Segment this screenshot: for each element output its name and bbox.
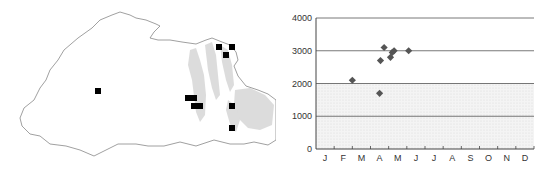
data-point-diamond bbox=[349, 77, 356, 84]
locality-marker bbox=[216, 44, 222, 50]
y-tick-label: 1000 bbox=[292, 111, 312, 121]
y-tick-label: 0 bbox=[307, 144, 312, 154]
x-tick-label: S bbox=[467, 153, 473, 163]
locality-marker bbox=[197, 103, 203, 109]
relief-shading bbox=[188, 42, 274, 132]
y-tick-label: 3000 bbox=[292, 46, 312, 56]
x-tick-label: J bbox=[414, 153, 419, 163]
locality-marker bbox=[229, 103, 235, 109]
x-tick-label: M bbox=[358, 153, 366, 163]
locality-marker bbox=[223, 52, 229, 58]
y-tick-label: 4000 bbox=[292, 13, 312, 23]
locality-marker bbox=[95, 88, 101, 94]
data-point-diamond bbox=[381, 44, 388, 51]
x-tick-labels: JFMAMJJASOND bbox=[323, 153, 529, 163]
data-point-diamond bbox=[405, 47, 412, 54]
locality-marker bbox=[229, 125, 235, 131]
x-tick-label: A bbox=[377, 153, 383, 163]
y-tick-labels: 01000200030004000 bbox=[292, 13, 312, 154]
x-tick-label: F bbox=[341, 153, 347, 163]
x-tick-label: J bbox=[432, 153, 437, 163]
data-point-diamond bbox=[377, 57, 384, 64]
locality-marker bbox=[191, 103, 197, 109]
x-tick-label: N bbox=[504, 153, 511, 163]
x-tick-label: O bbox=[485, 153, 492, 163]
x-tick-label: D bbox=[522, 153, 529, 163]
x-tick-label: J bbox=[323, 153, 328, 163]
country-outline bbox=[20, 12, 276, 156]
y-tick-label: 2000 bbox=[292, 79, 312, 89]
elevation-phenology-chart: 01000200030004000 JFMAMJJASOND bbox=[276, 0, 552, 169]
locality-marker bbox=[191, 95, 197, 101]
x-tick-label: A bbox=[449, 153, 455, 163]
locality-marker bbox=[229, 44, 235, 50]
x-tick-label: M bbox=[394, 153, 402, 163]
distribution-map bbox=[0, 0, 276, 169]
locality-marker bbox=[185, 95, 191, 101]
